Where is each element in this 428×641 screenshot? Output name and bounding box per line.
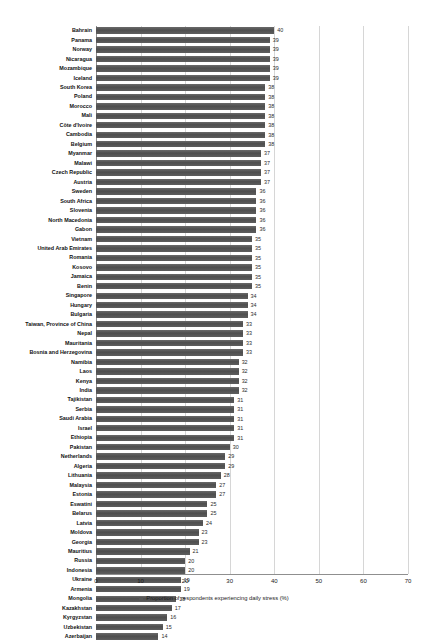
- bar[interactable]: [96, 198, 256, 204]
- bar-row[interactable]: Malaysia27: [96, 481, 408, 490]
- bar[interactable]: [96, 94, 265, 100]
- bar-row[interactable]: Taiwan, Province of China33: [96, 320, 408, 329]
- bar-row[interactable]: Mozambique39: [96, 64, 408, 73]
- bar-row[interactable]: Côte d'Ivoire38: [96, 121, 408, 130]
- bar[interactable]: [96, 349, 243, 355]
- bar[interactable]: [96, 122, 265, 128]
- bar[interactable]: [96, 520, 203, 526]
- bar-row[interactable]: Eswatini25: [96, 499, 408, 508]
- bar[interactable]: [96, 27, 274, 33]
- bar[interactable]: [96, 169, 261, 175]
- bar[interactable]: [96, 56, 270, 62]
- bar[interactable]: [96, 46, 270, 52]
- bar-row[interactable]: Jamaica35: [96, 272, 408, 281]
- bar-row[interactable]: Slovenia36: [96, 206, 408, 215]
- bar[interactable]: [96, 472, 221, 478]
- bar-row[interactable]: Gabon36: [96, 225, 408, 234]
- bar-row[interactable]: Mali38: [96, 111, 408, 120]
- bar[interactable]: [96, 624, 163, 630]
- bar[interactable]: [96, 311, 248, 317]
- bar[interactable]: [96, 113, 265, 119]
- bar-row[interactable]: Malawi37: [96, 159, 408, 168]
- bar-row[interactable]: Georgia23: [96, 537, 408, 546]
- bar-row[interactable]: Azerbaijan14: [96, 632, 408, 641]
- bar-row[interactable]: Tajikistan31: [96, 395, 408, 404]
- bar-row[interactable]: Russia20: [96, 556, 408, 565]
- bar-row[interactable]: Iceland39: [96, 73, 408, 82]
- bar[interactable]: [96, 463, 225, 469]
- bar-row[interactable]: North Macedonia36: [96, 215, 408, 224]
- bar-row[interactable]: Uzbekistan15: [96, 623, 408, 632]
- bar-row[interactable]: United Arab Emirates35: [96, 244, 408, 253]
- bar[interactable]: [96, 103, 265, 109]
- bar-row[interactable]: Netherlands29: [96, 452, 408, 461]
- bar[interactable]: [96, 245, 252, 251]
- bar[interactable]: [96, 255, 252, 261]
- bar[interactable]: [96, 302, 248, 308]
- bar-row[interactable]: Hungary34: [96, 301, 408, 310]
- bar-row[interactable]: Israel31: [96, 424, 408, 433]
- bar[interactable]: [96, 548, 190, 554]
- bar[interactable]: [96, 368, 239, 374]
- bar-row[interactable]: Nepal33: [96, 329, 408, 338]
- bar-row[interactable]: Latvia24: [96, 518, 408, 527]
- bar-row[interactable]: Estonia27: [96, 490, 408, 499]
- bar-row[interactable]: Bosnia and Herzegovina33: [96, 348, 408, 357]
- bar[interactable]: [96, 150, 261, 156]
- bar[interactable]: [96, 293, 248, 299]
- bar[interactable]: [96, 226, 256, 232]
- bar[interactable]: [96, 141, 265, 147]
- bar[interactable]: [96, 444, 230, 450]
- bar-row[interactable]: South Africa36: [96, 196, 408, 205]
- bar-row[interactable]: Nicaragua39: [96, 54, 408, 63]
- bar[interactable]: [96, 179, 261, 185]
- bar[interactable]: [96, 539, 199, 545]
- bar[interactable]: [96, 217, 256, 223]
- bar[interactable]: [96, 65, 270, 71]
- bar-row[interactable]: Sweden36: [96, 187, 408, 196]
- bar-row[interactable]: Laos32: [96, 367, 408, 376]
- bar-row[interactable]: Bulgaria34: [96, 310, 408, 319]
- bar-row[interactable]: Norway39: [96, 45, 408, 54]
- bar-row[interactable]: Belgium38: [96, 140, 408, 149]
- bar[interactable]: [96, 387, 239, 393]
- bar[interactable]: [96, 132, 265, 138]
- bar-row[interactable]: Moldova23: [96, 528, 408, 537]
- bar-row[interactable]: Ethiopia31: [96, 433, 408, 442]
- bar[interactable]: [96, 453, 225, 459]
- bar[interactable]: [96, 491, 216, 497]
- bar[interactable]: [96, 274, 252, 280]
- bar-row[interactable]: Kyrgyzstan16: [96, 613, 408, 622]
- bar[interactable]: [96, 416, 234, 422]
- bar[interactable]: [96, 37, 270, 43]
- bar-row[interactable]: Belarus25: [96, 509, 408, 518]
- bar-row[interactable]: Myanmar37: [96, 149, 408, 158]
- bar-row[interactable]: Serbia31: [96, 405, 408, 414]
- bar-row[interactable]: Namibia32: [96, 357, 408, 366]
- bar-row[interactable]: Kazakhstan17: [96, 604, 408, 613]
- bar[interactable]: [96, 397, 234, 403]
- bar-row[interactable]: Bahrain40: [96, 26, 408, 35]
- bar[interactable]: [96, 567, 185, 573]
- bar[interactable]: [96, 321, 243, 327]
- bar[interactable]: [96, 75, 270, 81]
- bar[interactable]: [96, 188, 256, 194]
- bar[interactable]: [96, 435, 234, 441]
- bar-row[interactable]: Lithuania28: [96, 471, 408, 480]
- bar[interactable]: [96, 330, 243, 336]
- bar[interactable]: [96, 529, 199, 535]
- bar-row[interactable]: Austria37: [96, 178, 408, 187]
- bar[interactable]: [96, 501, 207, 507]
- bar-row[interactable]: Singapore34: [96, 291, 408, 300]
- bar-row[interactable]: Kosovo35: [96, 263, 408, 272]
- bar[interactable]: [96, 378, 239, 384]
- bar[interactable]: [96, 510, 207, 516]
- bar[interactable]: [96, 605, 172, 611]
- bar-row[interactable]: Mauritania33: [96, 338, 408, 347]
- bar[interactable]: [96, 160, 261, 166]
- bar-row[interactable]: Saudi Arabia31: [96, 414, 408, 423]
- bar-row[interactable]: Vietnam35: [96, 234, 408, 243]
- bar-row[interactable]: Algeria29: [96, 462, 408, 471]
- bar[interactable]: [96, 406, 234, 412]
- bar-row[interactable]: Mauritius21: [96, 547, 408, 556]
